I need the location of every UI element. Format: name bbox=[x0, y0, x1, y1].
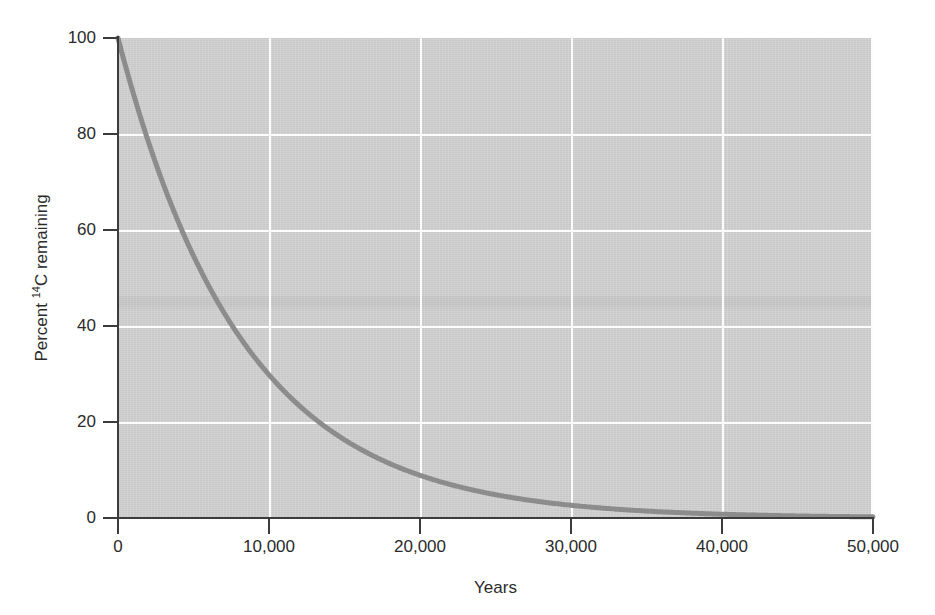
x-ticklabel-20000: 20,000 bbox=[372, 538, 468, 555]
y-tick-20 bbox=[103, 421, 118, 423]
x-ticklabel-50000: 50,000 bbox=[825, 538, 921, 555]
y-ticklabel-0: 0 bbox=[58, 509, 96, 526]
x-axis-label: Years bbox=[118, 578, 873, 598]
y-ticklabel-40: 40 bbox=[58, 317, 96, 334]
y-tick-100 bbox=[103, 37, 118, 39]
y-tick-80 bbox=[103, 133, 118, 135]
y-ticklabel-100: 100 bbox=[58, 29, 96, 46]
x-ticklabel-40000: 40,000 bbox=[674, 538, 770, 555]
x-tick-50000 bbox=[872, 519, 874, 534]
y-axis-label-superscript: 14 bbox=[30, 286, 42, 298]
x-axis-line bbox=[117, 517, 874, 519]
y-tick-60 bbox=[103, 229, 118, 231]
x-ticklabel-10000: 10,000 bbox=[221, 538, 317, 555]
y-tick-40 bbox=[103, 325, 118, 327]
x-tick-20000 bbox=[419, 519, 421, 534]
x-tick-30000 bbox=[570, 519, 572, 534]
y-axis-label-prefix: Percent bbox=[32, 298, 51, 361]
y-tick-0 bbox=[103, 517, 118, 519]
x-ticklabel-30000: 30,000 bbox=[523, 538, 619, 555]
decay-curve-path bbox=[118, 38, 873, 517]
y-axis-line bbox=[117, 36, 119, 520]
decay-curve-figure: 100 80 60 40 20 0 0 10,000 20,000 30,000… bbox=[0, 0, 935, 615]
y-axis-label: Percent 14C remaining bbox=[30, 38, 54, 518]
x-tick-40000 bbox=[721, 519, 723, 534]
decay-curve bbox=[118, 38, 873, 518]
y-ticklabel-20: 20 bbox=[58, 413, 96, 430]
x-tick-10000 bbox=[268, 519, 270, 534]
y-ticklabel-80: 80 bbox=[58, 125, 96, 142]
x-tick-0 bbox=[117, 519, 119, 534]
y-ticklabel-60: 60 bbox=[58, 221, 96, 238]
x-ticklabel-0: 0 bbox=[70, 538, 166, 555]
y-axis-label-suffix: C remaining bbox=[32, 194, 51, 286]
